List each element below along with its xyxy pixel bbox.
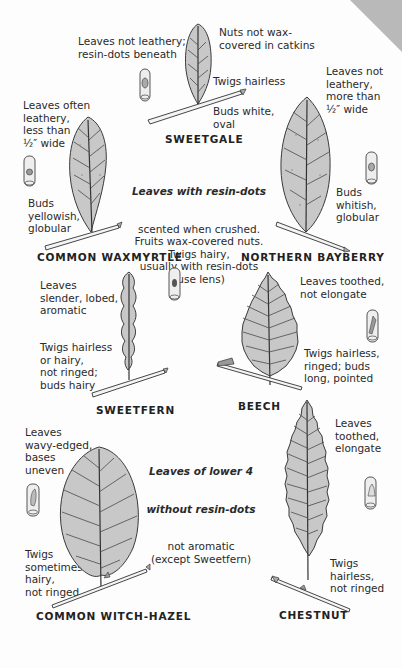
chestnut-illustration [0,0,402,668]
chestnut-bud-icon [365,477,376,509]
